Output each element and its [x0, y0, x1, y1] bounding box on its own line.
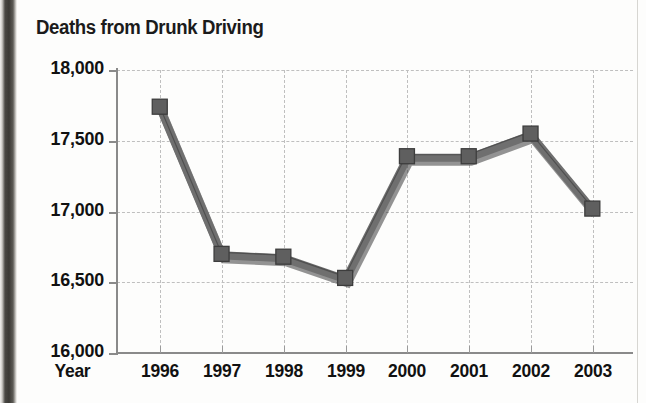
chart-page: Deaths from Drunk Driving 18,00017,50017… — [0, 0, 646, 403]
y-tick-label: 16,000 — [50, 340, 104, 362]
y-tick-mark — [109, 141, 118, 143]
x-tick-label: 1998 — [256, 360, 311, 382]
page-right-edge-line — [637, 0, 638, 403]
x-tick-label: 1999 — [318, 360, 373, 382]
gridline-vertical — [531, 70, 532, 353]
x-axis-line — [116, 352, 633, 354]
y-tick-label: 17,000 — [50, 199, 104, 221]
x-tick-mark — [593, 346, 594, 353]
gridline-vertical — [346, 70, 347, 353]
gridline-vertical — [593, 70, 594, 353]
y-axis-tick-labels: 18,00017,50017,00016,50016,000 — [0, 0, 104, 403]
gridline-vertical — [469, 70, 470, 353]
x-tick-label: 2003 — [565, 360, 620, 382]
x-tick-label: 2002 — [503, 360, 558, 382]
gridline-horizontal — [117, 282, 633, 283]
x-tick-label: 2000 — [380, 360, 435, 382]
y-tick-mark — [109, 212, 118, 214]
gridline-horizontal — [117, 212, 633, 213]
x-tick-mark — [407, 346, 408, 353]
x-tick-mark — [469, 346, 470, 353]
y-tick-mark — [109, 282, 118, 284]
x-tick-label: 1996 — [133, 360, 188, 382]
gridline-vertical — [160, 70, 161, 353]
x-tick-label: 1997 — [194, 360, 249, 382]
x-tick-mark — [284, 346, 285, 353]
gridline-vertical — [407, 70, 408, 353]
x-tick-label: 2001 — [442, 360, 497, 382]
y-tick-mark — [109, 70, 118, 72]
x-tick-mark — [531, 346, 532, 353]
gridline-vertical — [284, 70, 285, 353]
y-tick-label: 18,000 — [50, 57, 104, 79]
gridline-vertical — [222, 70, 223, 353]
x-axis-title: Year — [55, 360, 91, 382]
plot-area — [117, 70, 633, 353]
x-tick-mark — [160, 346, 161, 353]
x-tick-mark — [222, 346, 223, 353]
y-tick-label: 17,500 — [50, 128, 104, 150]
y-tick-mark — [109, 353, 118, 355]
x-tick-mark — [346, 346, 347, 353]
gridline-horizontal — [117, 70, 633, 71]
gridline-horizontal — [117, 141, 633, 142]
y-tick-label: 16,500 — [50, 269, 104, 291]
